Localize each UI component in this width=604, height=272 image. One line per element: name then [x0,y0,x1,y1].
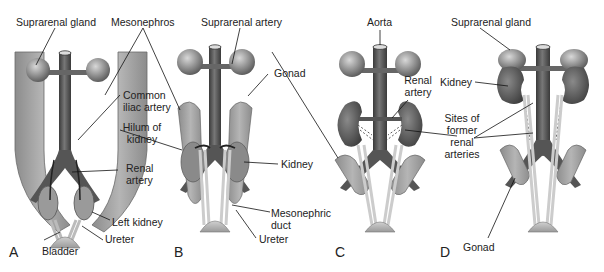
label-renal-artery-c-line2: artery [400,86,436,98]
kidney-right [74,186,94,220]
label-sites-former-renal-line2: former [440,124,484,136]
label-bladder: Bladder [42,245,78,257]
suprarenal-gland-right [86,58,110,82]
label-ureter-b: Ureter [259,233,288,245]
label-renal-artery-a-line2: artery [126,174,153,186]
label-gonad-b: Gonad [274,67,306,79]
label-common-iliac-artery-line1: Common [123,89,166,101]
label-sites-former-renal-line4: arteries [440,148,484,160]
aorta [536,46,550,156]
label-mesonephric-duct-line2: duct [271,219,291,231]
bladder [528,222,558,232]
renal-arteries [358,117,402,121]
panel-c-artwork [335,45,425,232]
label-hilum-of-kidney-line1: Hilum of [122,121,162,133]
label-hilum-of-kidney-line2: kidney [122,133,162,145]
suprarenal-gland-left [177,49,203,75]
label-suprarenal-gland-a: Suprarenal gland [16,16,96,28]
aorta [373,46,387,156]
kidney-left [38,186,58,220]
panel-d-artwork [497,45,589,232]
kidney-left [338,101,363,146]
panel-letter-b: B [174,244,183,260]
aorta [59,52,71,162]
label-gonad-d: Gonad [463,241,495,253]
label-common-iliac-artery-line2: iliac artery [123,101,171,113]
label-kidney-d: Kidney [440,76,472,88]
kidney-right [562,67,589,105]
bladder [365,222,395,232]
suprarenal-gland-right [229,49,255,75]
kidney-right [398,101,423,146]
label-renal-artery-a-line1: Renal [126,162,153,174]
label-ureter-a: Ureter [105,233,134,245]
label-sites-former-renal-line3: renal [440,136,484,148]
panel-letter-d: D [440,244,450,260]
aorta [209,46,221,156]
label-kidney-b: Kidney [281,158,313,170]
label-suprarenal-artery: Suprarenal artery [201,16,282,28]
panel-letter-a: A [9,244,18,260]
panel-letter-c: C [335,244,345,260]
label-suprarenal-gland-d: Suprarenal gland [451,16,531,28]
panel-b-artwork [177,45,255,232]
gonad-right [556,145,586,185]
label-left-kidney: Left kidney [112,216,163,228]
kidney-ascent-diagram: Suprarenal gland Mesonephros Common ilia… [0,0,604,272]
suprarenal-gland-left [339,51,365,77]
diagram-artwork [0,0,604,272]
label-renal-artery-c-line1: Renal [400,74,436,86]
label-sites-former-renal-line1: Sites of [440,112,484,124]
label-mesonephric-duct-line1: Mesonephric [271,207,331,219]
label-aorta: Aorta [367,16,392,28]
label-mesonephros: Mesonephros [111,16,175,28]
